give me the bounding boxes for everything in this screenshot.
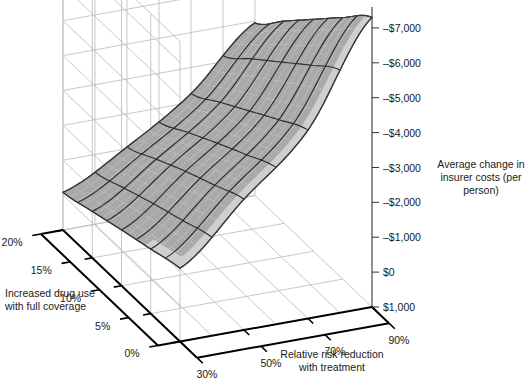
z-tick-label: –$1,000 xyxy=(383,231,421,243)
y-axis-title: Increased drug use with full coverage xyxy=(4,287,95,312)
surface-plot-svg: –$7,000 –$6,000 –$5,000 –$4,000 –$3,000 … xyxy=(0,0,525,380)
z-tick-label: –$6,000 xyxy=(383,57,421,69)
z-axis-title-line1: Average change in xyxy=(437,158,525,170)
x-axis-title-line1: Relative risk reduction xyxy=(280,348,383,360)
y-tick-label: 20% xyxy=(2,236,23,248)
x-tick-label: 50% xyxy=(260,357,281,369)
y-tick-label: 0% xyxy=(124,347,139,359)
z-axis-title-line2: insurer costs (per xyxy=(440,171,522,183)
z-tick-label: –$4,000 xyxy=(383,127,421,139)
z-tick-label: $0 xyxy=(383,266,395,278)
data-surface xyxy=(63,15,372,268)
y-tick-label: 15% xyxy=(31,264,52,276)
y-axis-title-line1: Increased drug use xyxy=(5,287,95,299)
z-axis-title: Average change in insurer costs (per per… xyxy=(437,158,525,196)
x-tick-label: 30% xyxy=(196,368,217,380)
y-tick-label: 5% xyxy=(95,320,110,332)
x-axis-title: Relative risk reduction with treatment xyxy=(280,348,383,373)
z-tick-label: –$3,000 xyxy=(383,162,421,174)
x-axis-title-line2: with treatment xyxy=(298,361,365,373)
y-axis-title-line2: with full coverage xyxy=(4,300,86,312)
z-tick-label: –$2,000 xyxy=(383,196,421,208)
z-tick-label: –$7,000 xyxy=(383,22,421,34)
surface-chart-figure: –$7,000 –$6,000 –$5,000 –$4,000 –$3,000 … xyxy=(0,0,525,380)
z-tick-label: –$5,000 xyxy=(383,92,421,104)
x-tick-label: 90% xyxy=(388,334,409,346)
z-axis-tick-labels: –$7,000 –$6,000 –$5,000 –$4,000 –$3,000 … xyxy=(383,22,421,313)
z-tick-label: $1,000 xyxy=(383,301,415,313)
z-axis-title-line3: person) xyxy=(463,184,499,196)
